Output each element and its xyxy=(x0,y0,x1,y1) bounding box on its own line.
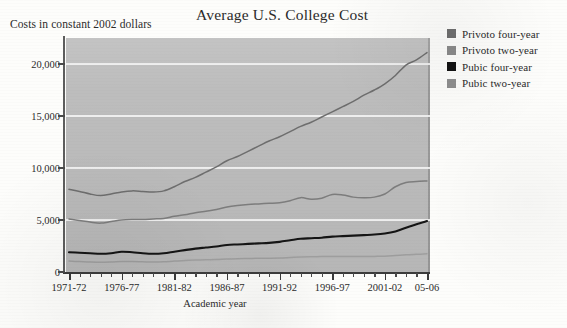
x-tick-minor xyxy=(143,273,144,277)
x-tick-minor xyxy=(111,273,112,277)
x-tick-minor xyxy=(216,273,217,277)
x-tick-major xyxy=(69,273,71,280)
legend-item-label: Pubic two-year xyxy=(462,77,530,89)
x-tick-minor xyxy=(364,273,365,277)
x-axis-title: Academic year xyxy=(0,298,430,309)
x-tick-minor xyxy=(416,273,417,277)
series-lines xyxy=(66,38,430,272)
x-tick-minor xyxy=(395,273,396,277)
x-tick-major xyxy=(174,273,176,280)
x-tick-label: 2001-02 xyxy=(367,282,402,293)
legend-item-label: Privoto four-year xyxy=(462,28,540,40)
x-tick-label: 1976-77 xyxy=(104,282,139,293)
y-axis-line xyxy=(63,36,65,274)
y-tick-label: 20,000 xyxy=(0,59,60,70)
x-tick-minor xyxy=(164,273,165,277)
x-tick-minor xyxy=(80,273,81,277)
x-tick-minor xyxy=(90,273,91,277)
y-tick-mark xyxy=(58,271,65,273)
x-tick-minor xyxy=(101,273,102,277)
chart-title: Average U.S. College Cost xyxy=(196,6,368,24)
x-tick-major xyxy=(385,273,387,280)
legend-color-swatch xyxy=(447,79,456,88)
x-tick-major xyxy=(427,273,429,280)
x-tick-label: 1991-92 xyxy=(262,282,297,293)
series-line xyxy=(69,181,427,223)
y-tick-mark xyxy=(58,219,65,221)
x-tick-minor xyxy=(301,273,302,277)
y-tick-label: 0 xyxy=(0,267,60,278)
x-tick-label: 1986-87 xyxy=(209,282,244,293)
x-tick-minor xyxy=(353,273,354,277)
x-tick-minor xyxy=(343,273,344,277)
x-tick-minor xyxy=(311,273,312,277)
x-tick-major xyxy=(122,273,124,280)
legend-color-swatch xyxy=(447,29,456,38)
x-tick-major xyxy=(332,273,334,280)
college-cost-line-chart: Costs in constant 2002 dollars Average U… xyxy=(0,0,567,328)
x-tick-minor xyxy=(406,273,407,277)
series-line xyxy=(69,221,427,254)
legend-item[interactable]: Privoto four-year xyxy=(447,26,540,41)
y-tick-label: 10,000 xyxy=(0,163,60,174)
x-tick-minor xyxy=(259,273,260,277)
x-tick-minor xyxy=(269,273,270,277)
legend-item-label: Privoto two-year xyxy=(462,44,538,56)
legend-item-label: Pubic four-year xyxy=(462,61,532,73)
legend-color-swatch xyxy=(447,62,456,71)
x-tick-minor xyxy=(195,273,196,277)
series-line xyxy=(69,53,427,196)
x-tick-minor xyxy=(248,273,249,277)
x-tick-major xyxy=(280,273,282,280)
legend-color-swatch xyxy=(447,46,456,55)
x-tick-minor xyxy=(185,273,186,277)
legend-item[interactable]: Privoto two-year xyxy=(447,43,540,58)
y-tick-label: 15,000 xyxy=(0,111,60,122)
series-line xyxy=(69,254,427,263)
legend-item[interactable]: Pubic four-year xyxy=(447,59,540,74)
x-tick-label: 1971-72 xyxy=(52,282,87,293)
x-tick-minor xyxy=(237,273,238,277)
x-tick-minor xyxy=(374,273,375,277)
x-tick-minor xyxy=(206,273,207,277)
plot-area xyxy=(66,38,430,272)
x-tick-label: 1996-97 xyxy=(315,282,350,293)
chart-legend: Privoto four-yearPrivoto two-yearPubic f… xyxy=(447,26,540,92)
legend-item[interactable]: Pubic two-year xyxy=(447,76,540,91)
x-tick-minor xyxy=(153,273,154,277)
x-tick-label: 05-06 xyxy=(415,282,440,293)
y-tick-label: 5,000 xyxy=(0,215,60,226)
x-tick-minor xyxy=(132,273,133,277)
x-tick-label: 1981-82 xyxy=(157,282,192,293)
y-tick-mark xyxy=(58,115,65,117)
chart-subtitle: Costs in constant 2002 dollars xyxy=(10,18,152,30)
x-tick-major xyxy=(227,273,229,280)
x-tick-minor xyxy=(290,273,291,277)
x-tick-minor xyxy=(322,273,323,277)
y-tick-mark xyxy=(58,167,65,169)
y-tick-mark xyxy=(58,63,65,65)
